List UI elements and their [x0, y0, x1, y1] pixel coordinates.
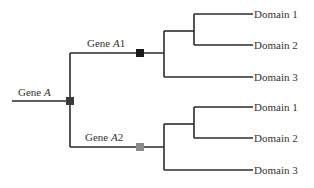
a1-domain-3-label: Domain 3 [254, 71, 298, 83]
root-node-marker [66, 97, 74, 105]
a1-domain-1-label: Domain 1 [254, 8, 298, 20]
a2-domain-3-label: Domain 3 [254, 164, 298, 176]
a1-node-marker [136, 49, 144, 57]
a2-domain-2-label: Domain 2 [254, 132, 298, 144]
a2-node-marker [136, 143, 144, 151]
a1-label: Gene A1 [87, 37, 125, 49]
a2-label: Gene A2 [85, 131, 123, 143]
gene-duplication-tree: Gene A Gene A1 Domain 1 Domain 2 Domain … [0, 0, 314, 188]
a2-domain-1-label: Domain 1 [254, 101, 298, 113]
a1-domain-2-label: Domain 2 [254, 39, 298, 51]
a2-subtree: Domain 1 Domain 2 Domain 3 [164, 101, 298, 176]
root-label: Gene A [18, 86, 51, 98]
a1-subtree: Domain 1 Domain 2 Domain 3 [164, 8, 298, 83]
